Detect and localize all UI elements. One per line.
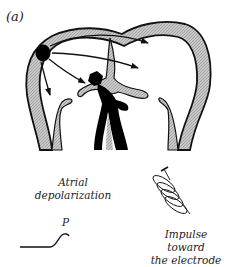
sa-node [36, 45, 51, 62]
p-wave-trace-icon [20, 234, 69, 247]
atrial-label-line2: depolarization [18, 189, 128, 202]
electrode-coil-icon [150, 167, 190, 217]
impulse-label: Impulse toward the electrode [146, 228, 226, 267]
av-node [88, 71, 103, 86]
impulse-label-line1: Impulse toward [146, 228, 226, 254]
atrial-label-line1: Atrial [18, 176, 128, 189]
panel-label: (a) [6, 10, 24, 23]
arrow-to-left-atrium-mid [52, 53, 138, 68]
arrow-down-right-atrium [41, 62, 50, 95]
impulse-label-line2: the electrode [146, 254, 226, 267]
p-wave-label: P [62, 216, 69, 229]
arrow-to-av-node [49, 59, 85, 83]
atrial-depolarization-label: Atrial depolarization [18, 176, 128, 202]
